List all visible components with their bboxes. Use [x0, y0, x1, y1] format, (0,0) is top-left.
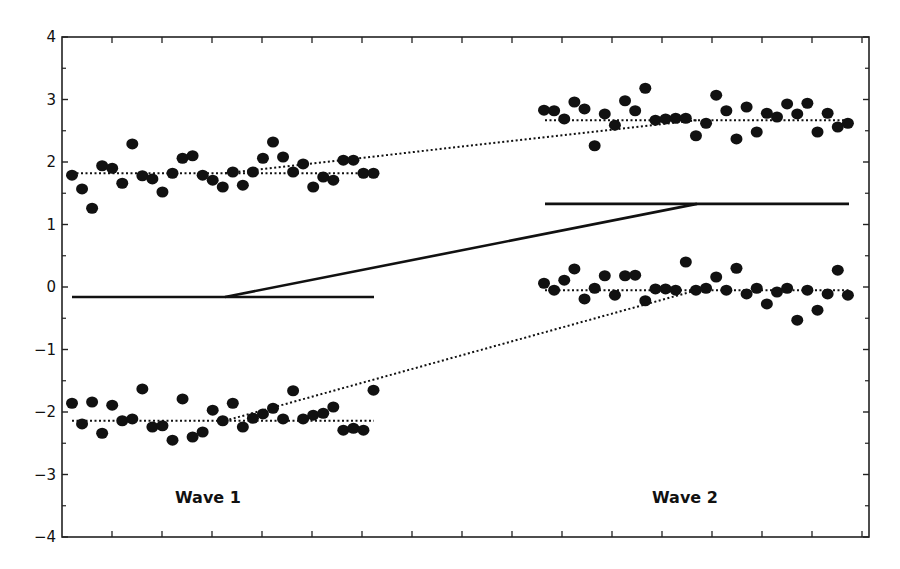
data-point — [197, 427, 209, 438]
data-point — [277, 413, 289, 424]
data-point — [812, 305, 824, 316]
data-point — [76, 183, 88, 194]
data-point — [357, 425, 369, 436]
data-point — [167, 168, 179, 179]
data-point — [842, 290, 854, 301]
data-point — [297, 158, 309, 169]
data-point — [307, 182, 319, 193]
data-point — [267, 137, 279, 148]
data-point — [639, 83, 651, 94]
data-point — [237, 180, 249, 191]
data-point — [649, 115, 661, 126]
data-point — [801, 285, 813, 296]
y-tick-label: −1 — [34, 341, 56, 359]
data-point — [548, 105, 560, 116]
data-point — [558, 113, 570, 124]
data-point — [217, 182, 229, 193]
data-point — [730, 263, 742, 274]
data-point — [700, 283, 712, 294]
data-point — [106, 400, 118, 411]
data-point — [690, 285, 702, 296]
data-point — [116, 178, 128, 189]
data-point — [257, 153, 269, 164]
data-point — [761, 298, 773, 309]
data-point — [629, 105, 641, 116]
data-point — [136, 383, 148, 394]
data-point — [842, 118, 854, 129]
y-tick-label: 1 — [46, 216, 56, 234]
data-points — [66, 83, 854, 446]
data-point — [609, 120, 621, 131]
data-point — [680, 113, 692, 124]
connector-line — [225, 290, 697, 421]
data-point — [257, 408, 269, 419]
data-point — [267, 403, 279, 414]
data-point — [327, 175, 339, 186]
data-point — [670, 285, 682, 296]
data-point — [751, 283, 763, 294]
data-point — [690, 130, 702, 141]
data-point — [86, 203, 98, 214]
data-point — [247, 167, 259, 178]
data-point — [156, 187, 168, 198]
data-point — [781, 283, 793, 294]
data-point — [368, 385, 380, 396]
data-point — [287, 167, 299, 178]
data-point — [771, 112, 783, 123]
data-point — [76, 418, 88, 429]
y-tick-label: −4 — [34, 528, 56, 546]
data-point — [832, 265, 844, 276]
data-point — [791, 315, 803, 326]
data-point — [167, 435, 179, 446]
wave-2-label: Wave 2 — [652, 488, 718, 507]
data-point — [277, 152, 289, 163]
data-point — [66, 170, 78, 181]
data-point — [177, 393, 189, 404]
data-point — [568, 97, 580, 108]
data-point — [741, 288, 753, 299]
data-point — [156, 420, 168, 431]
data-point — [66, 398, 78, 409]
data-point — [720, 105, 732, 116]
data-point — [96, 428, 108, 439]
data-point — [287, 385, 299, 396]
data-point — [538, 278, 550, 289]
data-point — [347, 155, 359, 166]
data-point — [801, 98, 813, 109]
wave-1-label: Wave 1 — [175, 488, 241, 507]
data-point — [822, 108, 834, 119]
data-point — [187, 150, 199, 161]
data-point — [599, 108, 611, 119]
data-point — [660, 283, 672, 294]
data-point — [589, 140, 601, 151]
data-point — [700, 118, 712, 129]
data-point — [317, 408, 329, 419]
data-point — [579, 293, 591, 304]
data-point — [741, 102, 753, 113]
data-point — [126, 413, 138, 424]
data-point — [599, 270, 611, 281]
data-point — [589, 283, 601, 294]
connector-line — [225, 204, 697, 297]
data-point — [609, 290, 621, 301]
data-point — [730, 133, 742, 144]
data-point — [327, 402, 339, 413]
data-point — [812, 127, 824, 138]
data-point — [579, 103, 591, 114]
data-point — [307, 410, 319, 421]
data-point — [791, 108, 803, 119]
data-point — [86, 397, 98, 408]
data-point — [337, 425, 349, 436]
data-point — [558, 275, 570, 286]
y-tick-label: 4 — [46, 28, 56, 46]
data-point — [619, 95, 631, 106]
data-point — [710, 90, 722, 101]
data-point — [720, 285, 732, 296]
data-point — [639, 295, 651, 306]
data-point — [177, 153, 189, 164]
data-point — [629, 270, 641, 281]
chart: 43210−1−2−3−4 Wave 1 Wave 2 — [0, 0, 900, 569]
data-point — [96, 160, 108, 171]
data-point — [227, 398, 239, 409]
data-point — [146, 422, 158, 433]
